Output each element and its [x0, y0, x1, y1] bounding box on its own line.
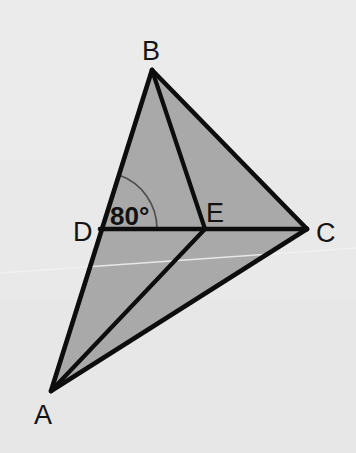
angle-measure-label-BDC: 80°	[110, 201, 149, 231]
vertex-label-D: D	[73, 217, 93, 247]
vertex-label-E: E	[206, 198, 224, 228]
vertex-label-B: B	[142, 36, 160, 66]
geometry-figure: A B C D E 80°	[0, 0, 356, 453]
vertex-label-C: C	[316, 218, 336, 248]
vertex-label-A: A	[34, 400, 52, 430]
diagram-canvas: A B C D E 80°	[0, 0, 356, 453]
